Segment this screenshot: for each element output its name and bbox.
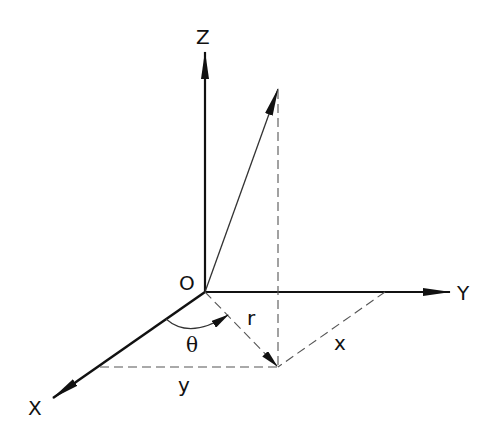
r-line [205, 292, 277, 366]
x-axis-label: X [28, 396, 42, 420]
y-component-label: y [178, 373, 190, 397]
x-component-line [278, 292, 385, 367]
y-axis-label: Y [456, 281, 470, 305]
x-component-label: x [334, 331, 346, 355]
radius-label: r [247, 306, 256, 330]
theta-arc [166, 315, 228, 329]
vector [205, 89, 278, 292]
theta-label: θ [186, 333, 198, 357]
z-axis-label: Z [196, 25, 210, 49]
origin-label: O [179, 271, 195, 295]
coordinate-diagram: Z Y X O r θ x y [0, 0, 491, 435]
